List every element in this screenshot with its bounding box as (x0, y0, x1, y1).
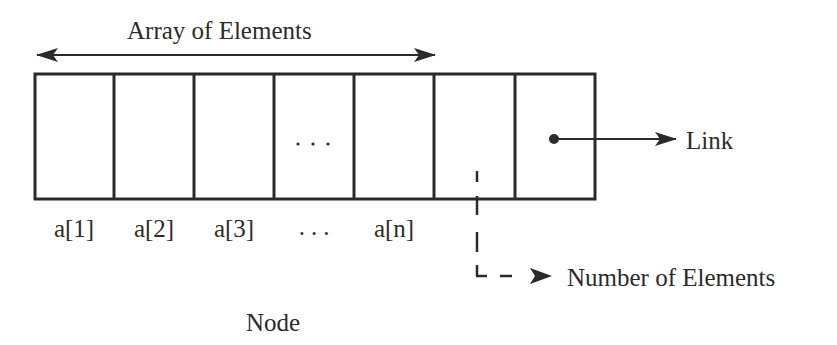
diagram-graphics (0, 0, 837, 345)
number-of-elements-label: Number of Elements (567, 265, 775, 290)
ellipsis-dots-icon (296, 142, 329, 145)
cell-label-ellipsis: ... (299, 214, 336, 239)
count-arrowhead-icon (530, 268, 552, 284)
array-of-elements-label: Array of Elements (127, 18, 312, 43)
cell-label-2: a[2] (134, 216, 174, 241)
node-diagram: Array of Elements a[1] a[2] a[3] ... a[n… (0, 0, 837, 345)
cell-label-3: a[3] (214, 216, 254, 241)
node-box (35, 74, 595, 199)
count-dashed-leader (476, 171, 512, 276)
cell-label-n: a[n] (374, 216, 414, 241)
node-caption: Node (246, 310, 300, 335)
cell-dividers (114, 74, 515, 199)
cell-label-1: a[1] (54, 216, 94, 241)
link-label: Link (686, 128, 733, 153)
